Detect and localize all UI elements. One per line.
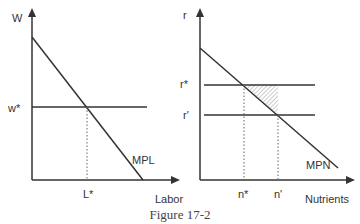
x-axis-label: Labor xyxy=(155,193,183,205)
mpl-label: MPL xyxy=(132,154,155,166)
y-axis-arrow-icon xyxy=(196,8,204,17)
r-star-label: r* xyxy=(180,78,189,90)
n-star-label: n* xyxy=(238,188,249,200)
y-axis-arrow-icon xyxy=(28,8,36,17)
r-prime-label: r' xyxy=(183,109,189,121)
l-star-label: L* xyxy=(83,188,94,200)
figure-caption: Figure 17-2 xyxy=(149,207,210,222)
figure: W w* L* MPL Labor r r* r' n* n' MPN Nutr… xyxy=(0,0,360,224)
y-axis-label: r xyxy=(183,9,187,21)
n-prime-label: n' xyxy=(274,188,282,200)
mpn-label: MPN xyxy=(306,159,331,171)
w-star-label: w* xyxy=(7,102,21,114)
labor-chart: W w* L* MPL Labor xyxy=(7,8,183,205)
x-axis-arrow-icon xyxy=(171,176,180,184)
x-axis-arrow-icon xyxy=(346,176,355,184)
nutrients-chart: r r* r' n* n' MPN Nutrients xyxy=(180,8,355,205)
x-axis-label: Nutrients xyxy=(305,193,350,205)
y-axis-label: W xyxy=(12,12,23,24)
mpn-curve xyxy=(200,48,338,168)
